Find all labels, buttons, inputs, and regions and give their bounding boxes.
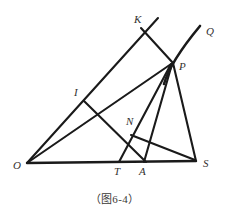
segment-P-to-S	[173, 63, 196, 161]
ray-O-to-K-upper	[27, 18, 158, 163]
vertex-label-A: A	[138, 165, 146, 177]
geometry-figure-root: O S T A P K Q I N （图6-4）	[0, 0, 229, 218]
vertex-label-N: N	[125, 115, 134, 127]
vertex-label-K: K	[133, 13, 142, 25]
line-O-to-P	[27, 62, 174, 163]
geometry-diagram-icon: O S T A P K Q I N	[0, 0, 229, 218]
figure-caption: （图6-4）	[0, 190, 229, 206]
vertex-label-T: T	[114, 165, 121, 177]
segment-I-to-A	[84, 101, 146, 162]
vertex-label-S: S	[203, 157, 209, 169]
vertex-label-O: O	[13, 159, 21, 171]
vertex-label-I: I	[73, 86, 79, 98]
vertex-label-P: P	[178, 60, 186, 72]
vertex-label-Q: Q	[206, 25, 214, 37]
base-line-O-S	[27, 161, 196, 163]
segment-K-to-P	[141, 28, 173, 63]
